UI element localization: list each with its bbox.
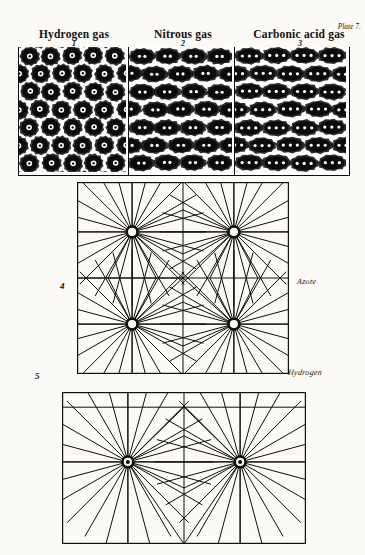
- label-hydrogen: Hydrogen: [288, 368, 323, 377]
- figure-number-5: 5: [35, 371, 40, 381]
- figure-number-4: 4: [60, 281, 65, 291]
- plate-illustration: Plate 7. Hydrogen gas 1 Nitrous gas 2 Ca…: [0, 0, 365, 555]
- gas-panels-row: [18, 47, 348, 175]
- gas-panel-hydrogen: [18, 47, 130, 176]
- label-azote: Azote: [297, 277, 317, 286]
- lattice-figure-azote: [77, 182, 289, 374]
- gas-panel-carbonic: [234, 47, 350, 176]
- gas-panel-nitrous: [128, 47, 236, 176]
- lattice-figure-hydrogen: [62, 392, 306, 544]
